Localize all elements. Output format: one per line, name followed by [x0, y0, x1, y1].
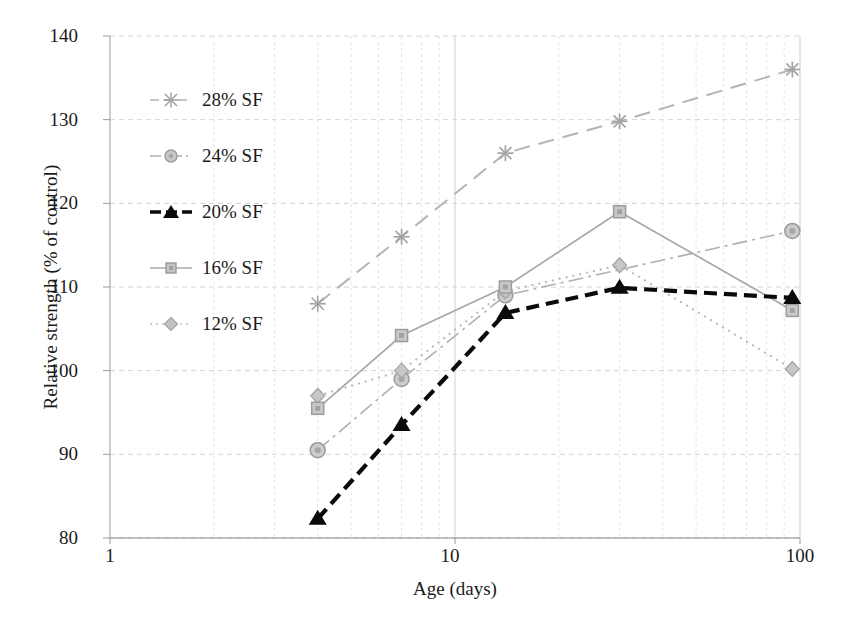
legend-item-16-sf[interactable]: 16% SF — [148, 240, 348, 296]
series-28-sf — [310, 61, 801, 311]
legend-item-12-sf[interactable]: 12% SF — [148, 296, 348, 352]
y-tick-90: 90 — [18, 443, 78, 465]
y-tick-100: 100 — [18, 360, 78, 382]
legend-label-20-sf: 20% SF — [194, 201, 263, 223]
x-tick-1: 1 — [80, 545, 140, 567]
legend: 28% SF 24% SF 20% SF — [148, 72, 348, 352]
chart-figure: Relative strength (% of control) Age (da… — [0, 0, 852, 636]
plot-area — [0, 0, 852, 636]
x-axis-label: Age (days) — [110, 578, 800, 600]
legend-label-16-sf: 16% SF — [194, 257, 263, 279]
x-tick-10: 10 — [420, 545, 480, 567]
legend-label-24-sf: 24% SF — [194, 145, 263, 167]
legend-marker-circle-icon — [148, 146, 194, 166]
legend-item-24-sf[interactable]: 24% SF — [148, 128, 348, 184]
series-20-sf — [309, 279, 802, 525]
y-tick-80: 80 — [18, 527, 78, 549]
legend-label-28-sf: 28% SF — [194, 89, 263, 111]
legend-item-20-sf[interactable]: 20% SF — [148, 184, 348, 240]
series-24-sf — [310, 223, 800, 457]
legend-marker-star-icon — [148, 90, 194, 110]
y-tick-140: 140 — [18, 25, 78, 47]
legend-marker-square-icon — [148, 258, 194, 278]
legend-marker-diamond-icon — [148, 314, 194, 334]
legend-marker-triangle-icon — [148, 202, 194, 222]
series-16-sf — [312, 206, 799, 415]
legend-item-28-sf[interactable]: 28% SF — [148, 72, 348, 128]
series-12-sf — [311, 258, 800, 404]
y-tick-120: 120 — [18, 192, 78, 214]
x-tick-100: 100 — [770, 545, 830, 567]
y-tick-110: 110 — [18, 276, 78, 298]
legend-label-12-sf: 12% SF — [194, 313, 263, 335]
y-tick-130: 130 — [18, 109, 78, 131]
